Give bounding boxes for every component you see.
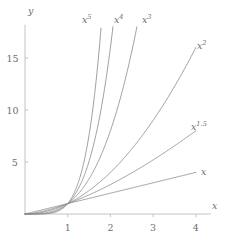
y-tick-label: 15 [6,54,18,64]
x-tick-label: 2 [107,223,113,233]
curve-label-exponent: 3 [147,13,151,21]
curve-x-4 [25,27,113,214]
y-axis-label: y [28,6,33,16]
plot-canvas [0,0,228,237]
curve-label-x1.5: x1.5 [191,122,207,132]
y-tick-label: 10 [6,106,18,116]
x-tick-label: 4 [193,223,199,233]
curve-label-x5: x5 [82,15,92,25]
chart-figure: 1234 51015 y x x5x4x3x2x1.5x [0,0,228,237]
axes-group [25,25,211,214]
curve-label-base: x [201,166,206,177]
curve-label-x: x [201,167,206,177]
curve-label-x4: x4 [114,15,124,25]
curve-label-exponent: 5 [87,13,91,21]
x-tick-label: 3 [150,223,156,233]
x-tick-label: 1 [65,223,71,233]
curve-label-exponent: 2 [202,39,206,47]
curves-group [25,27,196,214]
curve-x [25,172,196,214]
x-axis-label: x [212,201,217,211]
y-tick-label: 5 [12,158,18,168]
curve-label-x2: x2 [197,41,207,51]
curve-x-3 [25,27,137,214]
curve-label-exponent: 4 [119,13,123,21]
curve-label-x3: x3 [142,15,152,25]
curve-label-exponent: 1.5 [196,120,207,128]
curve-x-5 [25,28,101,214]
